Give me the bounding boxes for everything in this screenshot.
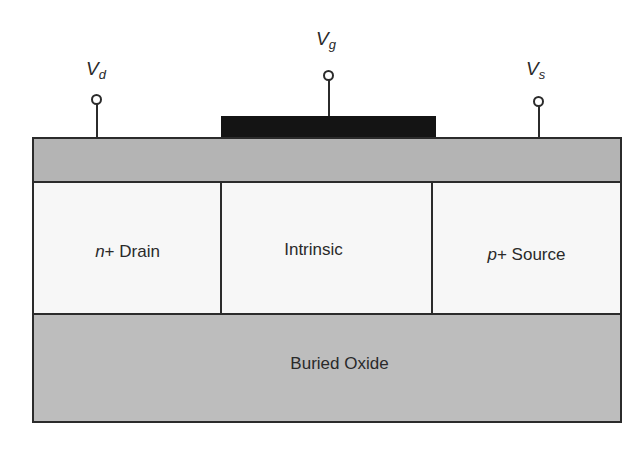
drain-region-name: + Drain xyxy=(105,242,160,261)
source-region-name: + Source xyxy=(497,245,566,264)
gate-terminal-wire xyxy=(328,80,330,117)
gate-electrode[interactable] xyxy=(221,116,436,138)
drain-terminal-label: Vd xyxy=(86,58,106,82)
source-terminal-subscript: s xyxy=(539,67,546,82)
buried-oxide-label: Buried Oxide xyxy=(222,354,457,374)
source-terminal-wire xyxy=(538,106,540,138)
gate-oxide-layer xyxy=(32,137,622,183)
source-terminal-symbol: V xyxy=(526,58,539,79)
source-doping-type: p xyxy=(488,245,497,264)
drain-doping-type: n xyxy=(95,242,104,261)
drain-region-label: n+ Drain xyxy=(34,242,221,262)
source-terminal-label: Vs xyxy=(526,58,545,82)
drain-terminal-subscript: d xyxy=(99,67,106,82)
intrinsic-region-label: Intrinsic xyxy=(222,240,405,260)
gate-terminal-symbol: V xyxy=(316,28,329,49)
source-region-label: p+ Source xyxy=(433,245,620,265)
drain-terminal-symbol: V xyxy=(86,58,99,79)
gate-terminal-label: Vg xyxy=(316,28,336,52)
gate-terminal-subscript: g xyxy=(329,37,336,52)
drain-terminal-wire xyxy=(96,104,98,138)
